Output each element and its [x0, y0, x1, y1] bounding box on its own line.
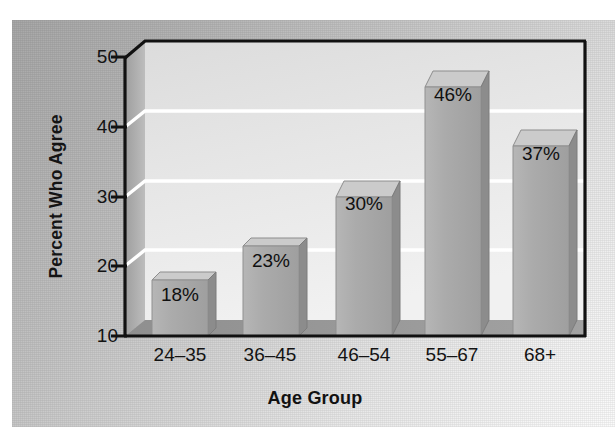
bar-value-label-3: 46%	[418, 85, 488, 104]
y-tick-label-50: 50	[78, 47, 118, 66]
x-axis-title: Age Group	[215, 388, 415, 409]
bar-value-label-1: 23%	[236, 251, 306, 270]
bar-value-label-0: 18%	[145, 285, 215, 304]
y-tick-label-40: 40	[78, 117, 118, 136]
y-tick-label-20: 20	[78, 256, 118, 275]
bar-value-label-4: 37%	[506, 144, 576, 163]
y-axis-tick-labels: 50 40 30 20 10	[60, 0, 118, 427]
y-tick-label-10: 10	[78, 326, 118, 345]
bar-value-label-2: 30%	[329, 194, 399, 213]
bar-group-3[interactable]	[425, 71, 489, 336]
chart-figure: 50 40 30 20 10 Percent Who Agree 18% 23%…	[0, 0, 615, 427]
x-tick-label-4: 68+	[485, 345, 595, 364]
y-tick-label-30: 30	[78, 187, 118, 206]
y-axis-title: Percent Who Agree	[46, 77, 67, 317]
